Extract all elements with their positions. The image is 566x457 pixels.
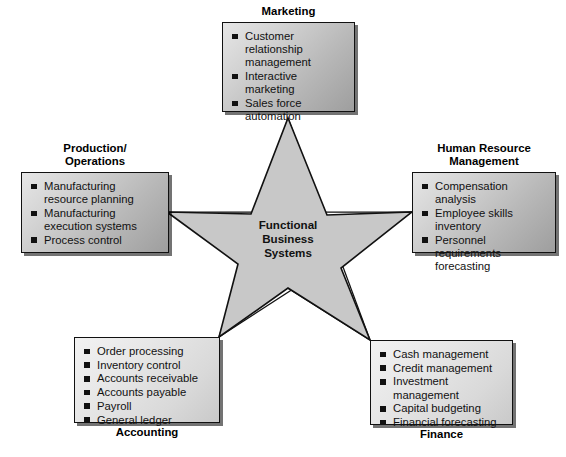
list-item-label: Personnel requirements forecasting xyxy=(435,234,501,272)
list-item-label: Compensation analysis xyxy=(435,180,508,205)
diagram-canvas: Functional Business Systems Marketing Cu… xyxy=(0,0,566,457)
bullet-square-icon xyxy=(84,390,90,396)
bullet-square-icon xyxy=(84,349,90,355)
list-item: Process control xyxy=(31,234,162,247)
list-item-label: Accounts payable xyxy=(97,386,186,398)
node-title-marketing: Marketing xyxy=(222,5,355,18)
bullet-square-icon xyxy=(380,406,386,412)
list-item: Accounts receivable xyxy=(84,372,213,385)
list-item: Customer relationship management xyxy=(232,30,348,70)
list-item: Compensation analysis xyxy=(422,180,549,206)
list-item-label: Investment management xyxy=(393,375,459,400)
list-item-label: General ledger xyxy=(97,414,172,426)
list-item-label: Credit management xyxy=(393,362,492,374)
list-item: Inventory control xyxy=(84,359,213,372)
list-item-label: Accounts receivable xyxy=(97,372,198,384)
bullet-square-icon xyxy=(422,237,428,243)
bullet-square-icon xyxy=(31,211,37,217)
list-item: Interactive marketing xyxy=(232,70,348,96)
list-item: Manufacturing resource planning xyxy=(31,180,162,206)
node-title-production: Production/ Operations xyxy=(21,142,169,168)
list-item-label: Manufacturing execution systems xyxy=(44,207,137,232)
node-list-human-resource-management: Compensation analysis Employee skills in… xyxy=(413,173,555,281)
node-list-production: Manufacturing resource planning Manufact… xyxy=(22,173,168,255)
bullet-square-icon xyxy=(380,365,386,371)
list-item-label: Order processing xyxy=(97,345,184,357)
node-list-accounting: Order processing Inventory control Accou… xyxy=(75,338,219,434)
node-box-finance[interactable]: Cash management Credit management Invest… xyxy=(370,340,513,425)
node-title-human-resource-management: Human Resource Management xyxy=(404,142,564,168)
list-item: Sales force automation xyxy=(232,97,348,123)
node-box-marketing[interactable]: Customer relationship management Interac… xyxy=(222,22,355,112)
list-item: Employee skills inventory xyxy=(422,207,549,233)
list-item: General ledger xyxy=(84,414,213,427)
list-item-label: Financial forecasting xyxy=(393,416,497,428)
list-item: Credit management xyxy=(380,362,506,375)
bullet-square-icon xyxy=(84,403,90,409)
list-item-label: Interactive marketing xyxy=(245,70,297,95)
bullet-square-icon xyxy=(380,352,386,358)
node-title-finance: Finance xyxy=(370,428,513,441)
list-item: Cash management xyxy=(380,348,506,361)
bullet-square-icon xyxy=(232,101,238,107)
list-item-label: Process control xyxy=(44,234,122,246)
node-box-human-resource-management[interactable]: Compensation analysis Employee skills in… xyxy=(412,172,556,253)
bullet-square-icon xyxy=(422,184,428,190)
bullet-square-icon xyxy=(380,420,386,426)
list-item: Manufacturing execution systems xyxy=(31,207,162,233)
list-item-label: Inventory control xyxy=(97,359,181,371)
bullet-square-icon xyxy=(422,211,428,217)
node-box-production[interactable]: Manufacturing resource planning Manufact… xyxy=(21,172,169,253)
bullet-square-icon xyxy=(31,184,37,190)
node-list-marketing: Customer relationship management Interac… xyxy=(223,23,354,131)
list-item: Order processing xyxy=(84,345,213,358)
list-item-label: Payroll xyxy=(97,400,132,412)
bullet-square-icon xyxy=(31,237,37,243)
list-item-label: Employee skills inventory xyxy=(435,207,513,232)
bullet-square-icon xyxy=(84,417,90,423)
list-item: Investment management xyxy=(380,375,506,401)
list-item: Payroll xyxy=(84,400,213,413)
list-item: Personnel requirements forecasting xyxy=(422,234,549,274)
node-list-finance: Cash management Credit management Invest… xyxy=(371,341,512,437)
bullet-square-icon xyxy=(380,379,386,385)
bullet-square-icon xyxy=(232,34,238,40)
list-item-label: Sales force automation xyxy=(245,97,302,122)
list-item-label: Cash management xyxy=(393,348,488,360)
list-item-label: Customer relationship management xyxy=(245,30,311,68)
node-title-accounting: Accounting xyxy=(74,426,220,439)
node-box-accounting[interactable]: Order processing Inventory control Accou… xyxy=(74,337,220,423)
list-item: Capital budgeting xyxy=(380,402,506,415)
center-label: Functional Business Systems xyxy=(226,218,350,260)
bullet-square-icon xyxy=(84,376,90,382)
bullet-square-icon xyxy=(84,362,90,368)
bullet-square-icon xyxy=(232,74,238,80)
list-item-label: Manufacturing resource planning xyxy=(44,180,134,205)
list-item-label: Capital budgeting xyxy=(393,402,481,414)
list-item: Accounts payable xyxy=(84,386,213,399)
